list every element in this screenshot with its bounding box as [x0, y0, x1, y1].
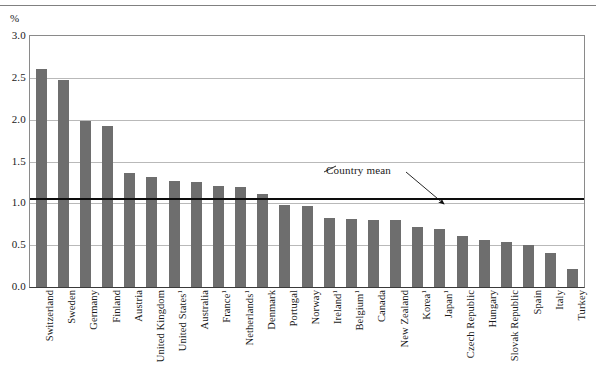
bar	[479, 240, 490, 287]
bar	[390, 220, 401, 287]
x-tick-label: Hungary	[487, 290, 498, 327]
x-tick-label: Slovak Republic	[509, 290, 520, 361]
y-tick-label: 1.0	[0, 197, 26, 208]
gridline	[30, 162, 584, 163]
footnote-marker: 1	[176, 290, 184, 294]
footnote-marker: 1	[353, 290, 361, 294]
bar	[567, 269, 578, 287]
y-tick-label: 1.5	[0, 156, 26, 167]
bar	[279, 205, 290, 287]
x-tick-label: Netherlands1	[244, 290, 255, 345]
gridline	[30, 120, 584, 121]
bar	[80, 121, 91, 287]
bar	[457, 236, 468, 287]
footnote-marker: 1	[419, 290, 427, 294]
bar-chart-figure: % 3.02.52.01.51.00.50.0 Country mean Swi…	[0, 0, 596, 382]
x-tick-label: Germany	[88, 290, 99, 330]
x-tick-label: Czech Republic	[465, 290, 476, 358]
x-tick-label: Switzerland	[44, 290, 55, 341]
bar	[412, 227, 423, 287]
y-tick-label: 0.5	[0, 239, 26, 250]
country-mean-line	[30, 198, 584, 200]
x-tick-label: Austria	[133, 290, 144, 322]
x-tick-label: Sweden	[66, 290, 77, 324]
y-tick-label: 3.0	[0, 30, 26, 41]
bar	[235, 187, 246, 287]
x-tick-label: Norway	[310, 290, 321, 324]
bar	[302, 206, 313, 287]
x-tick-label: United Kingdom	[155, 290, 166, 362]
bar	[324, 218, 335, 287]
bar	[257, 194, 268, 287]
x-tick-label: United States1	[177, 290, 188, 351]
bar	[523, 245, 534, 287]
x-tick-label: Japan1	[443, 290, 454, 318]
x-tick-label: Belgium1	[354, 290, 365, 330]
bar	[501, 242, 512, 287]
x-axis-category-labels: SwitzerlandSwedenGermanyFinlandAustriaUn…	[29, 290, 585, 382]
x-tick-label: Finland	[111, 290, 122, 323]
y-tick-label: 2.5	[0, 72, 26, 83]
x-tick-label: Canada	[376, 290, 387, 322]
bar	[146, 177, 157, 287]
x-tick-label: Ireland1	[332, 290, 343, 324]
gridline	[30, 203, 584, 204]
bar	[368, 220, 379, 287]
y-axis-unit-label: %	[10, 12, 19, 24]
footnote-marker: 1	[441, 290, 449, 294]
bar	[434, 229, 445, 287]
x-tick-label: France1	[221, 290, 232, 323]
plot-area: Country mean	[29, 35, 585, 288]
x-tick-label: Spain	[532, 290, 543, 314]
gridline	[30, 78, 584, 79]
y-axis-tick-labels: 3.02.52.01.51.00.50.0	[0, 35, 26, 288]
footnote-marker: 1	[242, 290, 250, 294]
bar	[545, 253, 556, 287]
x-tick-label: Turkey	[576, 290, 587, 321]
footnote-marker: 1	[331, 290, 339, 294]
figure-top-rule	[0, 5, 596, 6]
y-tick-label: 2.0	[0, 114, 26, 125]
bar	[169, 181, 180, 287]
country-mean-arrow-icon	[322, 162, 432, 224]
bar	[102, 126, 113, 287]
x-tick-label: New Zealand	[399, 290, 410, 347]
y-tick-label: 0.0	[0, 281, 26, 292]
x-tick-label: Italy	[554, 290, 565, 310]
bar	[346, 219, 357, 287]
x-tick-label: Korea1	[421, 290, 432, 320]
bar	[124, 173, 135, 287]
bar	[36, 69, 47, 287]
x-tick-label: Australia	[199, 290, 210, 329]
bar	[58, 80, 69, 287]
footnote-marker: 1	[220, 290, 228, 294]
x-tick-label: Portugal	[288, 290, 299, 326]
x-tick-label: Denmark	[266, 290, 277, 330]
bar	[213, 186, 224, 287]
